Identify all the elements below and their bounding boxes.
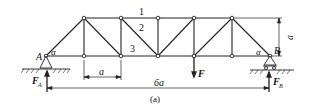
figure-caption: (a) — [150, 94, 160, 104]
member-1-label: 1 — [139, 6, 144, 17]
diagonal-4 — [194, 18, 232, 56]
support-a-label: A — [35, 51, 43, 62]
span-label: 6a — [154, 77, 164, 88]
truss-diagram: A α α B 1 2 3 a 6a a F F A F B (a) — [0, 0, 318, 111]
roller-support-b — [250, 56, 294, 74]
panel-width-label: a — [99, 66, 104, 77]
load-arrow — [192, 57, 196, 77]
truss-members — [46, 18, 282, 56]
member-2-label: 2 — [139, 22, 144, 33]
height-label: a — [284, 35, 295, 40]
load-label: F — [197, 68, 205, 79]
diagonal-3 — [158, 18, 194, 56]
angle-right-label: α — [256, 47, 261, 57]
member-3-label: 3 — [130, 43, 135, 54]
reaction-b-arrowhead — [267, 72, 271, 77]
right-end-diagonal — [232, 18, 270, 56]
pin-support-a — [21, 56, 70, 73]
reaction-a-subscript: A — [37, 82, 42, 88]
reaction-b-subscript: B — [279, 83, 283, 89]
support-b-label: B — [274, 45, 280, 56]
angle-left-label: α — [51, 47, 56, 57]
reaction-a-arrowhead — [45, 71, 49, 76]
diagonal-1 — [84, 18, 121, 56]
